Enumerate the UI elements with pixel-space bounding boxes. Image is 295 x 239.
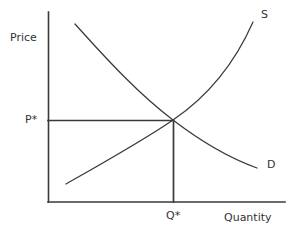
demand-curve-label: D	[267, 159, 275, 170]
chart-canvas	[0, 0, 295, 239]
supply-curve	[66, 22, 253, 184]
equilibrium-price-label: P*	[25, 114, 37, 125]
supply-demand-chart: Price P* Q* Quantity S D	[0, 0, 295, 239]
x-axis-label: Quantity	[224, 212, 272, 223]
supply-curve-label: S	[261, 9, 268, 20]
y-axis-label: Price	[10, 32, 37, 43]
equilibrium-quantity-label: Q*	[166, 210, 180, 221]
demand-curve	[75, 24, 257, 168]
